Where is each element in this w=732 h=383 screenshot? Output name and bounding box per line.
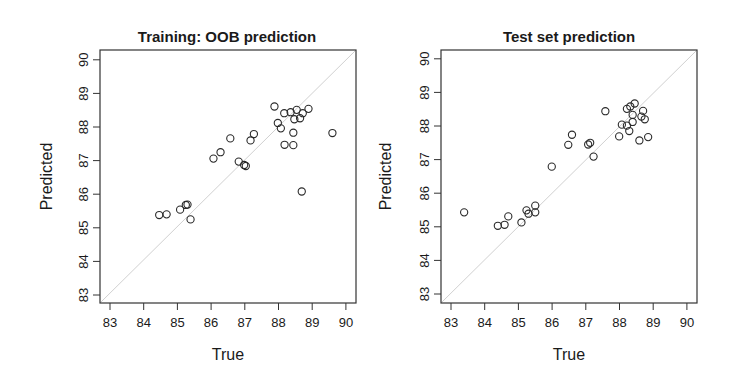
- data-point: [501, 221, 508, 228]
- y-axis-label: Predicted: [38, 143, 55, 211]
- data-point: [590, 153, 597, 160]
- training-oob-scatter-plot: Training: OOB prediction8384858687888990…: [0, 0, 366, 383]
- x-axis-label: True: [212, 346, 244, 363]
- data-point: [505, 213, 512, 220]
- test-set-chart-panel: Test set prediction838485868788899083848…: [366, 0, 732, 383]
- y-tick-label: 84: [417, 253, 432, 267]
- x-tick-label: 87: [579, 315, 593, 330]
- data-point: [568, 131, 575, 138]
- x-tick-label: 86: [204, 315, 218, 330]
- data-point: [217, 149, 224, 156]
- x-tick-label: 89: [305, 315, 319, 330]
- y-tick-label: 83: [76, 288, 91, 302]
- data-point: [636, 137, 643, 144]
- identity-reference-line: [101, 51, 355, 302]
- data-point: [156, 211, 163, 218]
- data-point: [274, 119, 281, 126]
- x-tick-label: 88: [612, 315, 626, 330]
- data-point: [281, 141, 288, 148]
- data-point: [210, 155, 217, 162]
- x-tick-label: 84: [477, 315, 491, 330]
- data-point: [461, 209, 468, 216]
- x-tick-label: 85: [511, 315, 525, 330]
- x-tick-label: 89: [646, 315, 660, 330]
- data-point: [645, 133, 652, 140]
- y-tick-label: 89: [76, 86, 91, 100]
- data-point: [565, 141, 572, 148]
- data-point: [602, 108, 609, 115]
- data-point: [629, 111, 636, 118]
- y-tick-label: 87: [417, 152, 432, 166]
- x-tick-label: 83: [444, 315, 458, 330]
- x-tick-label: 90: [339, 315, 353, 330]
- x-tick-label: 85: [170, 315, 184, 330]
- y-tick-label: 90: [417, 52, 432, 66]
- data-point: [629, 118, 636, 125]
- data-point: [548, 163, 555, 170]
- y-tick-label: 83: [417, 287, 432, 301]
- test-chart-title: Test set prediction: [503, 28, 635, 45]
- data-point: [247, 137, 254, 144]
- data-point: [329, 129, 336, 136]
- data-point: [277, 125, 284, 132]
- y-tick-label: 84: [76, 254, 91, 268]
- data-point: [585, 141, 592, 148]
- data-point: [494, 222, 501, 229]
- y-tick-label: 85: [76, 221, 91, 235]
- x-tick-label: 90: [680, 315, 694, 330]
- data-point: [532, 202, 539, 209]
- test-set-scatter-plot: Test set prediction838485868788899083848…: [366, 0, 732, 383]
- data-point: [163, 211, 170, 218]
- x-tick-label: 87: [238, 315, 252, 330]
- y-tick-label: 88: [417, 119, 432, 133]
- data-point: [187, 216, 194, 223]
- data-point: [290, 129, 297, 136]
- y-tick-label: 89: [417, 85, 432, 99]
- y-tick-label: 86: [76, 187, 91, 201]
- training-chart-title: Training: OOB prediction: [138, 28, 316, 45]
- data-point: [616, 133, 623, 140]
- data-point: [518, 219, 525, 226]
- y-tick-label: 87: [76, 153, 91, 167]
- y-axis-label: Predicted: [377, 143, 394, 211]
- x-tick-label: 83: [103, 315, 117, 330]
- data-point: [271, 103, 278, 110]
- y-tick-label: 90: [76, 53, 91, 67]
- data-point: [298, 188, 305, 195]
- x-axis-label: True: [553, 346, 585, 363]
- data-point: [587, 139, 594, 146]
- data-point: [290, 142, 297, 149]
- data-point: [227, 135, 234, 142]
- y-tick-label: 86: [417, 186, 432, 200]
- training-oob-chart-panel: Training: OOB prediction8384858687888990…: [0, 0, 366, 383]
- x-tick-label: 86: [545, 315, 559, 330]
- y-tick-label: 88: [76, 120, 91, 134]
- x-tick-label: 84: [136, 315, 150, 330]
- data-point: [235, 158, 242, 165]
- x-tick-label: 88: [271, 315, 285, 330]
- identity-reference-line: [442, 51, 696, 302]
- y-tick-label: 85: [417, 220, 432, 234]
